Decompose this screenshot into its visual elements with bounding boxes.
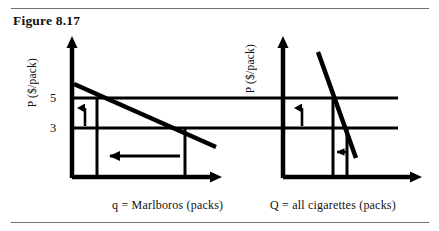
right-demand-curve [318, 52, 356, 158]
left-panel-axes [67, 36, 223, 183]
right-y-axis-label: P ($/pack) [244, 44, 256, 93]
y-tick-label-5: 5 [50, 91, 56, 106]
right-x-axis-label: Q = all cigarettes (packs) [270, 198, 396, 213]
left-demand-curve [74, 84, 216, 147]
y-tick-label-3: 3 [50, 121, 56, 136]
figure-container: Figure 8.17 [0, 0, 439, 231]
left-x-axis-label: q = Marlboros (packs) [112, 198, 223, 213]
economics-diagram [0, 0, 439, 231]
left-y-axis-label: P ($/pack) [26, 58, 38, 107]
right-panel-axes [278, 36, 423, 183]
